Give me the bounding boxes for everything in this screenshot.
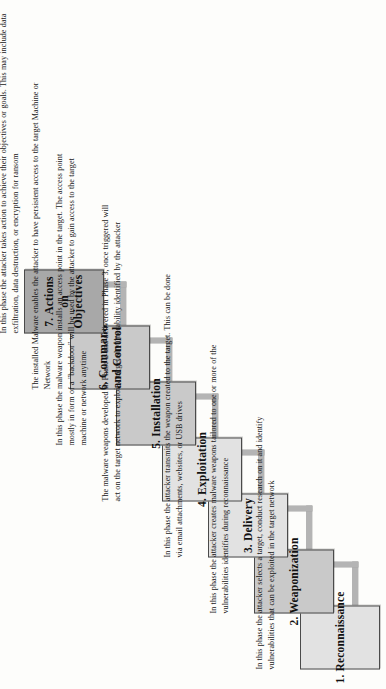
stage-box-reconnaissance[interactable]: 1.Reconnaissance — [300, 605, 380, 669]
stage-description-reconnaissance: In this phase the attacker selects a tar… — [254, 377, 278, 669]
stage-title-1: Reconnaissance — [334, 591, 346, 671]
stage-title-2: Weaponization — [288, 537, 300, 613]
stage-description-weaponization: In this phase the attacker creates malwa… — [208, 337, 232, 613]
stage-number-3: 3. — [242, 544, 254, 553]
stage-box-weaponization-label: 2.Weaponization — [287, 537, 301, 625]
stage-number-5: 5. — [150, 439, 162, 448]
stage-title-3: Delivery — [242, 497, 254, 540]
connector-2-to-3 — [306, 505, 312, 549]
stage-description-command-and-control: The installed Malware enables the attack… — [30, 73, 54, 389]
diagram-canvas: 1.Reconnaissance 2.Weaponization 3.Deliv… — [0, 0, 386, 689]
stage-description-exploitation: The malware weapons developed in Phase 2… — [100, 201, 124, 501]
stage-number-1: 1. — [334, 674, 346, 683]
stage-box-reconnaissance-label: 1.Reconnaissance — [333, 591, 347, 683]
connector-1-to-2 — [352, 561, 358, 605]
stage-title-5: Installation — [150, 378, 162, 437]
stage-description-actions-on-objectives: In this phase the attacker takes action … — [0, 13, 22, 333]
stage-title-4: Exploitation — [196, 431, 208, 494]
stage-number-2: 2. — [288, 616, 300, 625]
stage-description-installation: In this phase the malware weapon install… — [54, 139, 90, 445]
kill-chain-diagram: 1.Reconnaissance 2.Weaponization 3.Deliv… — [0, 0, 386, 689]
stage-description-delivery: In this phase the attacker transmits the… — [162, 271, 186, 557]
stage-number-4: 4. — [196, 498, 208, 507]
